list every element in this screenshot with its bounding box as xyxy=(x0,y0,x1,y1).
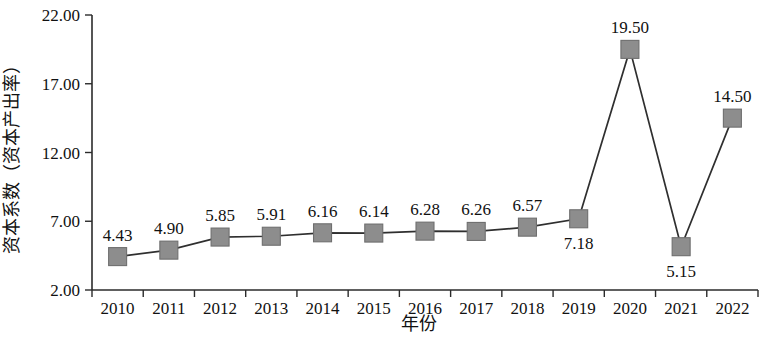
data-point-marker xyxy=(109,248,127,266)
data-point-value-label: 7.18 xyxy=(564,234,594,253)
data-point-marker xyxy=(160,241,178,259)
line-chart-canvas: 2.007.0012.0017.0022.00 2010201120122013… xyxy=(0,0,766,337)
data-point-marker xyxy=(672,238,690,256)
y-axis-tick-label: 2.00 xyxy=(50,281,80,300)
data-point-marker xyxy=(518,218,536,236)
x-axis-tick-label: 2011 xyxy=(152,299,185,318)
x-axis-tick-label: 2021 xyxy=(664,299,698,318)
x-axis-tick-label: 2014 xyxy=(306,299,341,318)
y-axis-tick-label: 22.00 xyxy=(42,6,80,25)
data-point-value-label: 6.16 xyxy=(308,202,338,221)
x-axis-title: 年份 xyxy=(401,314,437,334)
data-point-value-label: 4.90 xyxy=(154,219,184,238)
x-axis-tick-label: 2022 xyxy=(715,299,749,318)
data-point-marker xyxy=(314,224,332,242)
x-axis-tick-label: 2020 xyxy=(613,299,647,318)
data-point-marker xyxy=(570,210,588,228)
data-point-value-label: 4.43 xyxy=(103,226,133,245)
data-point-marker xyxy=(365,224,383,242)
x-axis-tick-label: 2012 xyxy=(203,299,237,318)
data-point-marker xyxy=(621,40,639,58)
data-point-marker xyxy=(723,109,741,127)
data-point-value-label: 6.14 xyxy=(359,202,389,221)
y-axis-tick-label: 17.00 xyxy=(42,75,80,94)
x-axis-tick-label: 2015 xyxy=(357,299,391,318)
x-axis-tick-label: 2018 xyxy=(510,299,544,318)
data-point-marker xyxy=(467,222,485,240)
data-point-marker xyxy=(211,228,229,246)
x-axis-tick-label: 2013 xyxy=(254,299,288,318)
data-point-value-label: 5.91 xyxy=(256,205,286,224)
y-axis-title: 资本系数（资本产出率） xyxy=(2,56,22,254)
data-point-value-label: 6.57 xyxy=(513,196,543,215)
x-axis-tick-label: 2019 xyxy=(562,299,596,318)
y-axis-tick-label: 7.00 xyxy=(50,212,80,231)
x-axis-tick-label: 2017 xyxy=(459,299,494,318)
data-point-value-label: 6.28 xyxy=(410,200,440,219)
data-point-marker xyxy=(262,227,280,245)
data-point-value-label: 14.50 xyxy=(713,87,751,106)
x-axis-tick-label: 2010 xyxy=(101,299,135,318)
y-axis-tick-label: 12.00 xyxy=(42,144,80,163)
data-point-value-label: 5.85 xyxy=(205,206,235,225)
data-point-value-label: 19.50 xyxy=(611,18,649,37)
data-point-value-label: 6.26 xyxy=(461,200,491,219)
chart-figure: 2.007.0012.0017.0022.00 2010201120122013… xyxy=(0,0,766,337)
data-point-value-label: 5.15 xyxy=(666,262,696,281)
data-point-marker xyxy=(416,222,434,240)
chart-background xyxy=(0,0,766,337)
